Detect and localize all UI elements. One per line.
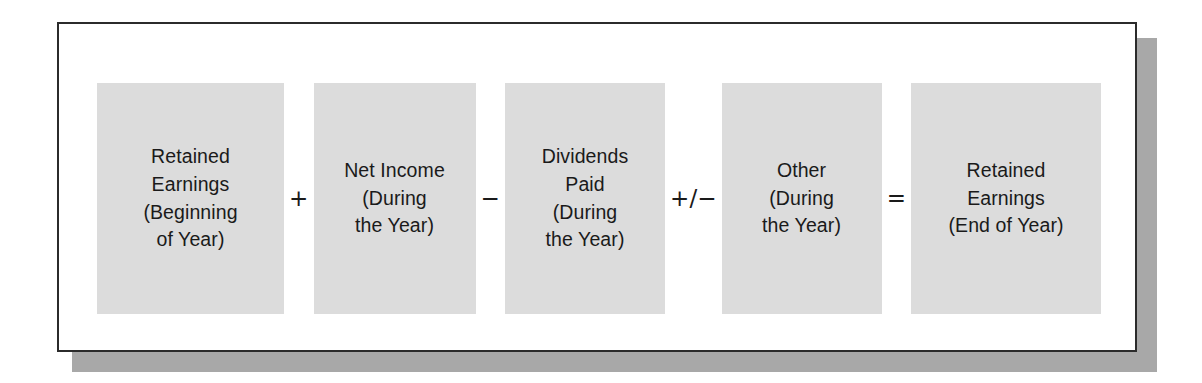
term-label-net-income: Net Income (During the Year) [338, 157, 451, 240]
operator-minus-symbol: − [481, 187, 500, 210]
operator-plus-minus-symbol: +/− [670, 187, 716, 210]
term-label-dividends-paid: Dividends Paid (During the Year) [536, 143, 635, 254]
operator-plus-minus: +/− [665, 83, 722, 314]
figure-frame: Retained Earnings (Beginning of Year) + … [57, 22, 1137, 352]
retained-earnings-formula: Retained Earnings (Beginning of Year) + … [97, 83, 1101, 314]
term-box-retained-earnings-beginning: Retained Earnings (Beginning of Year) [97, 83, 284, 314]
term-box-other: Other (During the Year) [722, 83, 882, 314]
operator-minus: − [476, 83, 506, 314]
term-box-dividends-paid: Dividends Paid (During the Year) [505, 83, 665, 314]
term-label-other: Other (During the Year) [756, 157, 847, 240]
operator-plus: + [284, 83, 314, 314]
term-label-retained-earnings-beginning: Retained Earnings (Beginning of Year) [137, 143, 243, 254]
term-box-net-income: Net Income (During the Year) [314, 83, 476, 314]
operator-equals-symbol: = [887, 187, 906, 210]
operator-equals: = [882, 83, 912, 314]
term-label-retained-earnings-end: Retained Earnings (End of Year) [942, 157, 1069, 240]
term-box-retained-earnings-end: Retained Earnings (End of Year) [911, 83, 1101, 314]
operator-plus-symbol: + [289, 187, 308, 210]
